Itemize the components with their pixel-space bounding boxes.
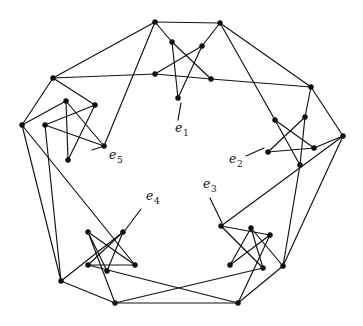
- edge-layer: [22, 22, 343, 303]
- outer-ring-node: [341, 134, 346, 139]
- gadget-node: [209, 77, 214, 82]
- gadget-attach-edge: [53, 78, 95, 105]
- gadget-node: [170, 40, 175, 45]
- gadget-node: [200, 44, 205, 49]
- edge-label-layer: e1e2e3e4e5: [109, 120, 243, 206]
- graph-diagram-canvas: e1e2e3e4e5: [0, 0, 363, 326]
- gadget-spoke-edge: [211, 79, 311, 87]
- gadget-node: [86, 230, 91, 235]
- label-leader-e3: [210, 198, 222, 223]
- gadget-node: [219, 224, 224, 229]
- edge-label-e5: e5: [109, 147, 123, 165]
- gadget-spoke-edge: [53, 74, 155, 78]
- gadget-node: [303, 115, 308, 120]
- outer-ring-node: [20, 123, 25, 128]
- outer-ring-node: [59, 279, 64, 284]
- gadget-spoke-edge: [283, 165, 300, 266]
- outer-ring-edge: [311, 87, 343, 136]
- gadget-node: [298, 163, 303, 168]
- outer-ring-node: [51, 76, 56, 81]
- gadget-spoke-edge: [88, 265, 238, 303]
- outer-ring-edge: [220, 23, 311, 87]
- gadget-node: [121, 230, 126, 235]
- gadget-star-edge: [66, 101, 68, 160]
- gadget-node: [268, 233, 273, 238]
- gadget-spoke-edge: [45, 125, 61, 281]
- gadget-node: [66, 158, 71, 163]
- gadget-spoke-edge: [104, 22, 155, 146]
- gadget-node: [312, 146, 317, 151]
- label-leader-e1: [178, 103, 181, 120]
- gadget-star-edge: [230, 235, 270, 265]
- outer-ring-edge: [283, 136, 343, 266]
- gadget-node: [249, 226, 254, 231]
- gadget-node: [261, 266, 266, 271]
- gadget-node: [43, 123, 48, 128]
- gadget-spoke-edge: [220, 23, 275, 120]
- gadget-node: [64, 99, 69, 104]
- gadget-star-edge: [172, 42, 178, 98]
- gadget-star-edge: [230, 228, 251, 265]
- label-leader-e4: [123, 209, 141, 233]
- edge-label-e3: e3: [203, 176, 217, 194]
- gadget-node: [273, 118, 278, 123]
- gadget-spoke-edge: [221, 136, 343, 226]
- outer-ring-edge: [53, 22, 155, 78]
- gadget-attach-edge: [22, 101, 66, 125]
- gadget-attach-edge: [305, 87, 311, 117]
- outer-ring-edge: [22, 78, 53, 125]
- outer-ring-edge: [238, 266, 283, 303]
- gadget-star-edge: [275, 120, 314, 148]
- edge-label-e1: e1: [175, 120, 189, 138]
- outer-ring-node: [309, 85, 314, 90]
- outer-ring-node: [281, 264, 286, 269]
- edge-label-e4: e4: [146, 188, 160, 206]
- gadget-node: [133, 263, 138, 268]
- figure-root: e1e2e3e4e5: [0, 0, 363, 326]
- gadget-star-edge: [68, 105, 95, 160]
- gadget-attach-edge: [202, 23, 220, 46]
- gadget-node: [176, 96, 181, 101]
- gadget-star-edge: [155, 74, 211, 79]
- gadget-node: [266, 150, 271, 155]
- gadget-node: [102, 144, 107, 149]
- edge-label-e2: e2: [229, 151, 243, 169]
- outer-ring-node: [113, 301, 118, 306]
- outer-ring-node: [236, 301, 241, 306]
- label-leader-e2: [246, 148, 264, 156]
- gadget-node: [228, 263, 233, 268]
- gadget-star-edge: [88, 232, 123, 265]
- gadget-node: [153, 72, 158, 77]
- outer-ring-edge: [61, 281, 115, 303]
- gadget-node: [86, 263, 91, 268]
- outer-ring-node: [218, 21, 223, 26]
- node-layer: [20, 20, 346, 306]
- gadget-attach-edge: [155, 22, 172, 42]
- outer-ring-node: [153, 20, 158, 25]
- outer-ring-edge: [155, 22, 220, 23]
- gadget-node: [93, 103, 98, 108]
- gadget-node: [105, 269, 110, 274]
